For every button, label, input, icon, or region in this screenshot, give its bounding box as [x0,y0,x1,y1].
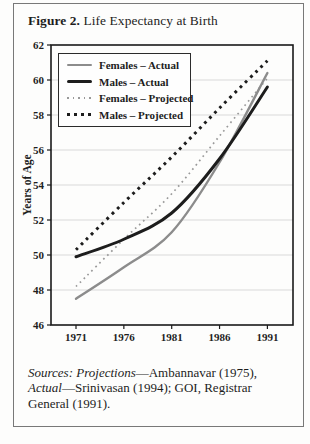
legend-item: Females – Projected [67,91,190,106]
solid-line-icon [67,80,92,83]
sources-note: Sources: Projections—Ambannavar (1975), … [28,365,278,411]
y-tick-label: 58 [33,109,45,121]
text-run: Actual [28,380,62,395]
text-run: Sources: Projections [28,365,136,380]
x-tick-label: 1971 [65,331,87,343]
y-tick-label: 46 [33,319,45,331]
legend-label: Males – Actual [99,76,169,88]
x-tick-label: 1976 [113,331,136,343]
legend-label: Females – Actual [99,59,179,71]
legend-label: Males – Projected [99,109,183,121]
y-tick-label: 54 [33,179,45,191]
solid-line-icon [67,64,92,66]
y-tick-label: 48 [33,284,45,296]
dotted-line-icon [67,113,92,116]
x-tick-label: 1991 [256,331,278,343]
y-tick-label: 60 [33,74,45,86]
text-run: —Srinivasan (1994); GOI, Registrar Gener… [28,380,252,410]
y-axis-title: Years of Age [21,154,34,215]
y-tick-label: 52 [33,214,45,226]
legend-item: Males – Actual [67,74,190,89]
legend-item: Males – Projected [67,107,190,122]
legend-label: Females – Projected [99,92,193,104]
legend-item: Females – Actual [67,58,190,73]
dotted-line-icon [67,97,92,99]
y-tick-label: 50 [33,249,45,261]
text-run: —Ambannavar (1975), [136,365,257,380]
chart-legend: Females – ActualMales – ActualFemales – … [58,53,191,127]
y-tick-label: 62 [33,39,45,51]
y-tick-label: 56 [33,144,45,156]
x-tick-label: 1986 [209,331,232,343]
x-tick-label: 1981 [161,331,183,343]
